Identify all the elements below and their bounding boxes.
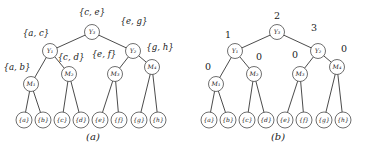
tree-node-name: Y₂ (315, 47, 322, 54)
tree-node-name: Y₁ (47, 47, 54, 54)
tree-leaf-label: {h} (152, 116, 164, 123)
tree-node-annotation: 2 (274, 10, 280, 21)
tree-leaf-label: {f} (299, 116, 309, 124)
tree-leaf-label: {h} (337, 116, 349, 123)
tree-leaf-label: {a} (203, 116, 214, 123)
tree-node-annotation: 3 (311, 22, 317, 33)
tree-leaf-label: {g} (318, 116, 330, 124)
tree-node-annotation: {c, d} (58, 52, 85, 62)
tree-leaf-label: {b} (222, 116, 234, 123)
tree-leaf-label: {d} (260, 116, 272, 123)
tree-node-name: M₃ (110, 70, 120, 77)
tree-node-annotation: {e, f} (92, 49, 117, 59)
tree-node-annotation: 0 (341, 43, 347, 54)
tree-node-name: M₃ (295, 70, 305, 77)
tree-node-annotation: {a, b} (3, 62, 30, 72)
tree-leaf-label: {g} (133, 116, 145, 124)
tree-node-name: M₂ (249, 70, 259, 77)
tree-node-annotation: 1 (225, 29, 231, 40)
tree-leaf-label: {a} (18, 116, 29, 123)
tree-node-name: Y₃ (89, 28, 96, 35)
tree-node-name: M₄ (332, 63, 342, 70)
tree-node-annotation: 0 (256, 51, 262, 62)
panel-b-caption: (b) (185, 131, 371, 142)
panel-b: Y₃2Y₁1Y₂3M₁0M₂0M₃0M₄0{a}{b}{c}{d}{e}{f}{… (185, 0, 371, 154)
tree-leaf-label: {b} (37, 116, 49, 123)
tree-node-name: M₄ (147, 63, 157, 70)
tree-node-annotation: 0 (292, 49, 298, 60)
tree-node-name: M₁ (211, 80, 221, 87)
tree-leaf-label: {f} (114, 116, 124, 124)
figure-container: Y₃{c, e}Y₁{a, c}Y₂{e, g}M₁{a, b}M₂{c, d}… (0, 0, 371, 154)
tree-leaf-label: {e} (279, 116, 290, 123)
tree-leaf-label: {d} (75, 116, 87, 123)
tree-node-annotation: 0 (205, 61, 211, 72)
tree-leaf-label: {c} (57, 116, 68, 123)
panel-a-caption: (a) (0, 131, 186, 142)
tree-node-name: M₂ (64, 70, 74, 77)
tree-node-annotation: {g, h} (146, 42, 173, 52)
tree-node-annotation: {e, g} (121, 16, 148, 26)
tree-node-name: Y₁ (232, 47, 239, 54)
tree-node-name: Y₃ (274, 28, 281, 35)
panel-a: Y₃{c, e}Y₁{a, c}Y₂{e, g}M₁{a, b}M₂{c, d}… (0, 0, 186, 154)
tree-leaf-label: {e} (94, 116, 105, 123)
tree-node-annotation: {c, e} (79, 7, 105, 17)
tree-leaf-label: {c} (242, 116, 253, 123)
tree-node-name: M₁ (26, 80, 36, 87)
tree-node-annotation: {a, c} (23, 28, 49, 38)
tree-node-name: Y₂ (130, 47, 137, 54)
